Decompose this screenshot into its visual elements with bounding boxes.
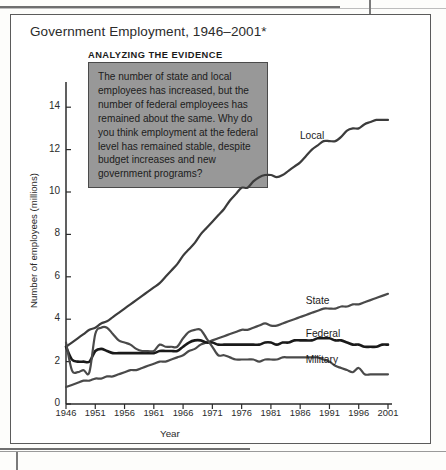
y-tick-label: 12 (38, 143, 60, 154)
chart-plot-area (0, 0, 446, 470)
decorative-rule-bottom (0, 448, 250, 450)
line-chart-svg (0, 0, 446, 470)
series-label-local: Local (300, 130, 324, 141)
decorative-tick-bottom (16, 452, 18, 470)
y-tick-label: 4 (38, 312, 60, 323)
y-tick-label: 2 (38, 355, 60, 366)
series-label-federal: Federal (306, 328, 341, 339)
x-axis-title: Year (160, 428, 180, 439)
decorative-rule-bottom-thin (0, 451, 446, 452)
series-line-local (66, 120, 388, 347)
y-tick-label: 10 (38, 185, 60, 196)
y-tick-label: 6 (38, 270, 60, 281)
series-label-military: Military (306, 354, 338, 365)
x-tick-label: 2001 (371, 407, 405, 418)
series-line-federal (66, 338, 388, 362)
y-tick-label: 8 (38, 227, 60, 238)
figure-page: Government Employment, 1946–2001* ANALYZ… (0, 0, 446, 470)
y-tick-label: 14 (38, 100, 60, 111)
y-axis-title: Number of employees (millions) (28, 146, 39, 336)
series-label-state: State (306, 295, 330, 306)
